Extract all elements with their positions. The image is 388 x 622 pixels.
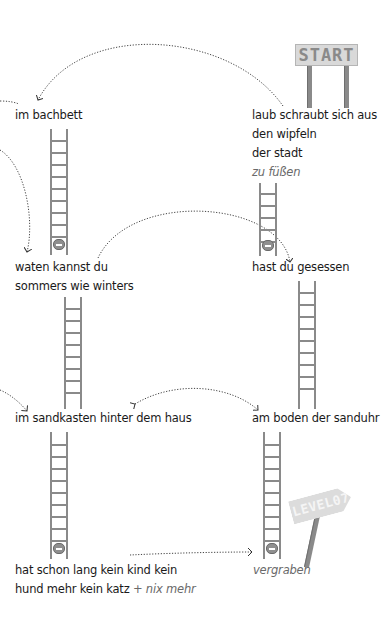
arrow-edge-to-sandkasten: [0, 390, 27, 411]
player-token-icon: [266, 543, 278, 554]
station-start-italic: zu füßen: [252, 163, 300, 182]
station-kind-suffix: + nix mehr: [133, 582, 196, 596]
station-bachbett: im bachbett: [15, 106, 82, 125]
start-sign: START: [295, 44, 358, 66]
arrow-start-to-bachbett: [38, 44, 283, 106]
start-sign-post-left: [307, 66, 312, 108]
station-waten-line-2: sommers wie winters: [15, 277, 134, 296]
ladder-start: [259, 183, 277, 256]
station-start-line-2: den wipfeln: [252, 125, 317, 144]
ladder-gesessen: [298, 281, 316, 409]
start-sign-post-right: [344, 66, 349, 108]
station-gesessen: hast du gesessen: [252, 258, 349, 277]
ladder-bachbett: [50, 129, 68, 255]
station-kind-line-1: hat schon lang kein kind kein: [15, 561, 177, 580]
ladder-waten: [64, 297, 82, 409]
arrow-sandkasten-sanduhr: [135, 388, 258, 410]
arrow-kind-to-vergraben: [130, 552, 252, 555]
station-kind-line-2-text: hund mehr kein katz: [15, 582, 130, 596]
ladder-sanduhr: [263, 432, 281, 559]
station-kind-line-2: hund mehr kein katz + nix mehr: [15, 580, 196, 599]
station-sandkasten: im sandkasten hinter dem haus: [15, 409, 192, 428]
arrow-edge-to-waten: [0, 150, 30, 252]
station-vergraben: vergraben: [253, 561, 311, 580]
station-waten-line-1: waten kannst du: [15, 258, 108, 277]
arrow-edge-to-bachbett: [0, 101, 19, 104]
station-sanduhr: am boden der sanduhr: [252, 409, 379, 428]
ladder-sandkasten: [50, 432, 68, 559]
player-token-icon: [53, 543, 65, 554]
station-start-line-3: der stadt: [252, 144, 302, 163]
station-start-line-1: laub schraubt sich aus: [252, 106, 377, 125]
player-token-icon: [262, 240, 274, 251]
player-token-icon: [53, 239, 65, 250]
